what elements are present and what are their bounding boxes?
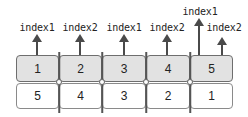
- junction-node: [187, 79, 193, 85]
- bottom-row-cell: 2: [146, 83, 190, 109]
- bottom-row-cell: 3: [102, 83, 146, 109]
- up-arrow-icon: [198, 25, 200, 55]
- bottom-row-cell: 5: [16, 83, 59, 109]
- top-row-cell: 2: [59, 55, 102, 82]
- top-row-cell: 5: [190, 55, 233, 82]
- pointer-label-col5-tall: index1: [183, 6, 218, 18]
- cell-value: 5: [208, 62, 215, 76]
- cell-value: 3: [121, 62, 128, 76]
- up-arrow-icon: [36, 41, 38, 55]
- cell-value: 4: [165, 62, 172, 76]
- cell-value: 1: [34, 62, 41, 76]
- bottom-row-cell: 1: [190, 83, 233, 109]
- junction-node: [56, 79, 62, 85]
- bottom-row-cell: 4: [59, 83, 102, 109]
- cell-value: 2: [77, 62, 84, 76]
- junction-node: [143, 79, 149, 85]
- array-pointer-diagram: index1 index2 index1 index2 index1 index…: [0, 0, 248, 117]
- up-arrow-icon: [221, 44, 223, 55]
- up-arrow-icon: [123, 41, 125, 55]
- top-row-cell: 3: [102, 55, 146, 82]
- up-arrow-icon: [166, 41, 168, 55]
- cell-value: 4: [77, 89, 84, 103]
- pointer-label-col3: index1: [107, 22, 142, 34]
- top-row-cell: 4: [146, 55, 190, 82]
- top-row-cell: 1: [16, 55, 59, 82]
- up-arrow-icon: [79, 41, 81, 55]
- cell-value: 1: [208, 89, 215, 103]
- cell-value: 2: [165, 89, 172, 103]
- cell-value: 3: [121, 89, 128, 103]
- pointer-label-col1: index1: [20, 22, 55, 34]
- junction-node: [99, 79, 105, 85]
- pointer-label-col2: index2: [63, 22, 98, 34]
- cell-value: 5: [34, 89, 41, 103]
- pointer-label-col4: index2: [150, 22, 185, 34]
- pointer-label-col5-short: index2: [207, 22, 242, 34]
